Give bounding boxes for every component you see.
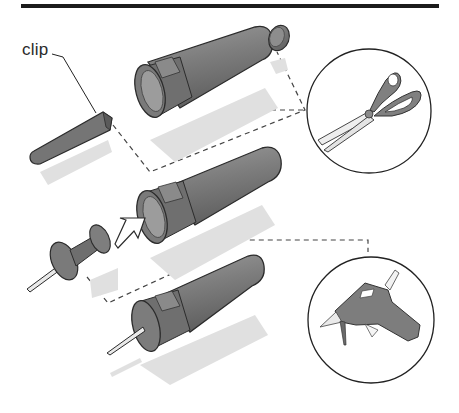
needle-shadow <box>110 358 142 377</box>
clip-label: clip <box>22 40 48 60</box>
insert-arrow <box>115 218 145 248</box>
scissors-callout <box>307 49 431 173</box>
pushpin-shadow <box>90 268 118 298</box>
clip-leader-line <box>52 54 96 113</box>
cap-shadow <box>270 58 288 74</box>
illustration <box>0 0 459 413</box>
glue-gun-callout <box>308 257 434 383</box>
